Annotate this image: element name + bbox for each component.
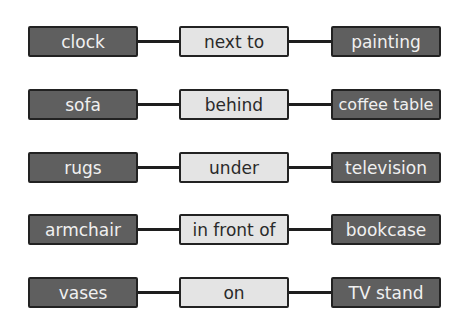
relation-row: sofa behind coffee table	[0, 89, 462, 120]
edge	[289, 228, 331, 231]
relation-row: rugs under television	[0, 152, 462, 183]
object-node: bookcase	[331, 214, 441, 245]
subject-node: clock	[28, 26, 138, 57]
edge	[138, 40, 179, 43]
edge	[138, 103, 179, 106]
edge	[289, 40, 331, 43]
relation-node: under	[179, 152, 289, 183]
relation-node: in front of	[179, 214, 289, 245]
object-node: painting	[331, 26, 441, 57]
relation-row: vases on TV stand	[0, 277, 462, 308]
edge	[289, 291, 331, 294]
edge	[138, 291, 179, 294]
subject-node: rugs	[28, 152, 138, 183]
subject-node: sofa	[28, 89, 138, 120]
relation-row: armchair in front of bookcase	[0, 214, 462, 245]
relation-node: next to	[179, 26, 289, 57]
object-node: coffee table	[331, 89, 441, 120]
edge	[289, 103, 331, 106]
edge	[289, 166, 331, 169]
subject-node: armchair	[28, 214, 138, 245]
relation-row: clock next to painting	[0, 26, 462, 57]
relation-node: on	[179, 277, 289, 308]
edge	[138, 166, 179, 169]
object-node: television	[331, 152, 441, 183]
object-node: TV stand	[331, 277, 441, 308]
edge	[138, 228, 179, 231]
relation-node: behind	[179, 89, 289, 120]
subject-node: vases	[28, 277, 138, 308]
